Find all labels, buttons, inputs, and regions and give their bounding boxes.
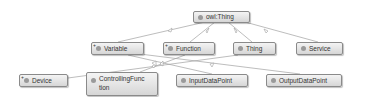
node-label: Variable [104, 45, 127, 53]
node-output-data-point[interactable]: OutputDataPoint [266, 74, 342, 87]
node-input-data-point[interactable]: InputDataPoint [176, 74, 248, 87]
node-owl-thing[interactable]: owl:Thing [193, 11, 250, 23]
class-icon [96, 46, 101, 51]
class-icon [301, 46, 306, 51]
node-label-line1: ControllingFunc [99, 75, 145, 83]
node-label: Thing [246, 45, 262, 53]
node-thing[interactable]: Thing [233, 42, 276, 55]
node-service[interactable]: Service [296, 42, 343, 55]
node-label: Service [309, 45, 331, 53]
node-label: OutputDataPoint [279, 77, 327, 85]
node-variable[interactable]: + Variable [91, 42, 144, 55]
node-label: owl:Thing [206, 13, 234, 21]
node-label-line2: tion [99, 84, 109, 92]
class-icon [24, 78, 29, 83]
node-label: InputDataPoint [189, 77, 232, 85]
node-label: Device [32, 77, 52, 85]
class-icon [198, 15, 203, 20]
node-device[interactable]: + Device [19, 74, 68, 87]
node-function[interactable]: + Function [163, 42, 215, 55]
class-icon [181, 78, 186, 83]
node-controlling-function[interactable]: ControllingFunc tion [86, 72, 158, 96]
class-icon [238, 46, 243, 51]
class-icon [168, 46, 173, 51]
class-icon [271, 78, 276, 83]
node-label: Function [176, 45, 201, 53]
class-icon [91, 78, 96, 83]
